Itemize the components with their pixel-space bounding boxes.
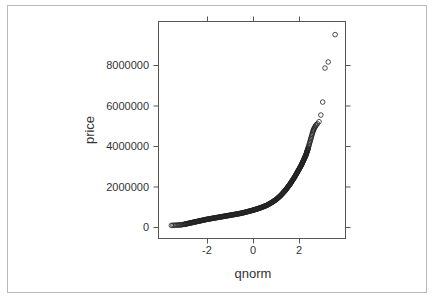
y-tick-label: 4000000: [106, 140, 149, 152]
y-tick-label: 0: [143, 221, 149, 233]
y-tick-label: 6000000: [106, 100, 149, 112]
y-tick-label: 8000000: [106, 59, 149, 71]
plot-area: [159, 22, 346, 239]
x-tick-label: 0: [250, 244, 256, 256]
qq-plot: -2 0 2 0 2000000 4000000 6000000 8000000…: [0, 0, 432, 301]
y-axis-label: price: [82, 116, 97, 144]
x-tick-label: 2: [296, 244, 302, 256]
data-points: [169, 32, 337, 227]
x-axis-label: qnorm: [235, 266, 272, 281]
y-tick-label: 2000000: [106, 181, 149, 193]
x-tick-label: -2: [202, 244, 212, 256]
